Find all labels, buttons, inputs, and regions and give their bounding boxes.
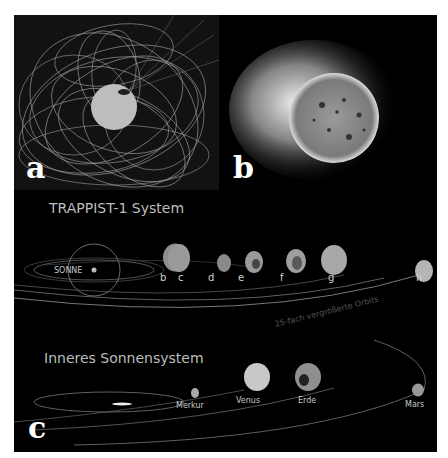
planet-label-mars: Mars bbox=[405, 400, 424, 409]
planet-label-merkur: Merkur bbox=[176, 401, 204, 410]
figure: a bbox=[14, 15, 437, 452]
panel-letter-a: a bbox=[26, 153, 45, 183]
panel-c-system-comparison: TRAPPIST-1 System SONNE b c d e f g h In… bbox=[14, 190, 437, 452]
planet-label-g: g bbox=[328, 272, 334, 283]
planet-label-b: b bbox=[160, 272, 166, 283]
sun-label: SONNE bbox=[54, 266, 82, 275]
planet-label-e: e bbox=[238, 272, 244, 283]
planet-label-venus: Venus bbox=[236, 396, 260, 405]
panel-letter-c: c bbox=[28, 413, 46, 443]
planet-label-erde: Erde bbox=[298, 396, 316, 405]
panel-a-magnetic-field: a bbox=[14, 15, 219, 190]
orbits-illustration bbox=[14, 190, 437, 452]
panel-b-active-star: b bbox=[219, 15, 437, 190]
planet-label-d: d bbox=[208, 272, 214, 283]
panel-letter-b: b bbox=[233, 153, 254, 183]
planet-label-c: c bbox=[178, 272, 184, 283]
planet-label-f: f bbox=[280, 272, 284, 283]
inner-system-title: Inneres Sonnensystem bbox=[44, 350, 204, 366]
trappist-title: TRAPPIST-1 System bbox=[49, 200, 184, 216]
planet-label-h: h bbox=[416, 272, 422, 283]
